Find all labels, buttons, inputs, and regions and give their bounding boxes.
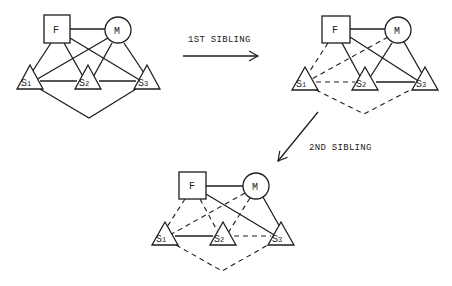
diagram-after-1st-sibling: F M S1 S2 S3 <box>292 16 438 114</box>
father-label: F <box>189 181 195 192</box>
sibling-3-label: S3 <box>272 234 282 245</box>
sibling-2-label: S2 <box>79 78 89 89</box>
edge-m-s3 <box>404 42 424 77</box>
edge-m-s1 <box>34 38 108 81</box>
down-left-arrow-icon <box>278 112 318 161</box>
edge-f-s3 <box>70 38 143 82</box>
sibling-1-label: S1 <box>156 234 166 245</box>
edge-s1-s3 <box>40 89 136 118</box>
sibling-3-label: S3 <box>138 78 148 89</box>
sibling-2-label: S2 <box>356 79 366 90</box>
arrow-2nd-sibling: 2ND SIBLING <box>278 112 372 161</box>
diagram-initial: F M S1 S2 S3 <box>17 15 160 118</box>
edge-m-s2 <box>369 43 392 79</box>
sibling-2-label: S2 <box>214 234 224 245</box>
mother-label: M <box>252 182 258 193</box>
arrow-1st-sibling: 1ST SIBLING <box>183 35 258 56</box>
father-label: F <box>53 25 59 36</box>
mother-label: M <box>114 26 120 37</box>
edge-f-s1 <box>165 199 185 230</box>
arrow-2-label: 2ND SIBLING <box>309 143 372 153</box>
edge-m-s2 <box>228 198 250 233</box>
family-transition-diagram: F M S1 S2 S3 1ST SIBLING F M <box>0 0 452 286</box>
edge-f-s2 <box>342 43 362 80</box>
sibling-3-label: S3 <box>416 79 426 90</box>
sibling-1-label: S1 <box>296 79 306 90</box>
edge-m-s3 <box>124 43 146 76</box>
diagram-after-2nd-sibling: F M S1 S2 S3 <box>152 172 294 271</box>
mother-label: M <box>394 26 400 37</box>
edge-s1-s3 <box>316 89 412 114</box>
edge-m-s3 <box>263 197 281 229</box>
sibling-1-label: S1 <box>21 78 31 89</box>
edge-s1-s3 <box>176 245 268 271</box>
father-label: F <box>332 25 338 36</box>
arrow-1-label: 1ST SIBLING <box>188 35 251 45</box>
